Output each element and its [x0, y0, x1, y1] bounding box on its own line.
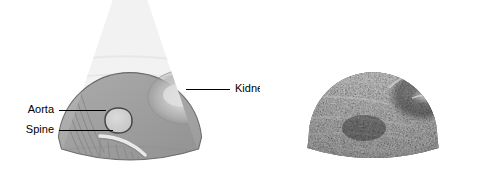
ultrasound-svg-canvas [260, 0, 493, 189]
ultrasound-sector-region [260, 0, 493, 189]
schematic-sector-diagram: Aorta Spine Kidney [0, 0, 260, 189]
label-spine-text: Spine [26, 123, 54, 135]
label-aorta-text: Aorta [28, 103, 55, 115]
schematic-svg-canvas: Aorta Spine Kidney [0, 0, 260, 189]
near-field-fascial-layers [304, 0, 442, 63]
bmode-ultrasound-scan [260, 0, 493, 189]
figure-ultrasound-schematic-and-scan: Aorta Spine Kidney [0, 0, 493, 189]
label-kidney: Kidney [186, 82, 260, 94]
ultrasound-depth-falloff [260, 0, 493, 189]
sector-vignette [63, 0, 198, 160]
label-kidney-text: Kidney [235, 82, 260, 94]
